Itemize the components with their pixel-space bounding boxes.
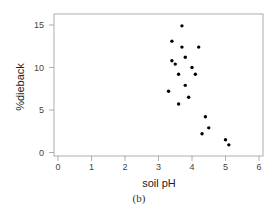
figure-caption: (b) bbox=[133, 192, 146, 205]
y-tick-label: 10 bbox=[34, 63, 44, 73]
data-point bbox=[170, 59, 173, 62]
data-point bbox=[167, 90, 170, 93]
y-tick-label: 0 bbox=[39, 148, 44, 158]
x-tick-label: 1 bbox=[89, 162, 94, 172]
data-point bbox=[184, 56, 187, 59]
y-tick-label: 15 bbox=[34, 20, 44, 30]
scatter-chart: 051015 0123456 soil pH %dieback (b) bbox=[0, 0, 278, 211]
data-point bbox=[177, 102, 180, 105]
data-points bbox=[167, 24, 231, 146]
data-point bbox=[204, 115, 207, 118]
data-point bbox=[187, 96, 190, 99]
data-point bbox=[177, 73, 180, 76]
x-tick-label: 3 bbox=[156, 162, 161, 172]
x-tick-label: 6 bbox=[256, 162, 261, 172]
data-point bbox=[227, 143, 230, 146]
data-point bbox=[190, 66, 193, 69]
data-point bbox=[174, 62, 177, 65]
data-point bbox=[184, 84, 187, 87]
x-tick-label: 4 bbox=[189, 162, 194, 172]
x-tick-label: 2 bbox=[122, 162, 127, 172]
x-tick-label: 5 bbox=[223, 162, 228, 172]
y-tick-label: 5 bbox=[39, 105, 44, 115]
data-point bbox=[197, 45, 200, 48]
data-point bbox=[207, 126, 210, 129]
x-axis-label: soil pH bbox=[142, 177, 176, 189]
data-point bbox=[180, 24, 183, 27]
x-axis: 0123456 bbox=[55, 156, 261, 172]
data-point bbox=[194, 73, 197, 76]
plot-frame bbox=[54, 14, 263, 156]
x-tick-label: 0 bbox=[55, 162, 60, 172]
data-point bbox=[180, 45, 183, 48]
y-axis-label: %dieback bbox=[14, 63, 26, 111]
data-point bbox=[170, 39, 173, 42]
y-axis: 051015 bbox=[34, 20, 54, 158]
data-point bbox=[224, 138, 227, 141]
data-point bbox=[200, 132, 203, 135]
